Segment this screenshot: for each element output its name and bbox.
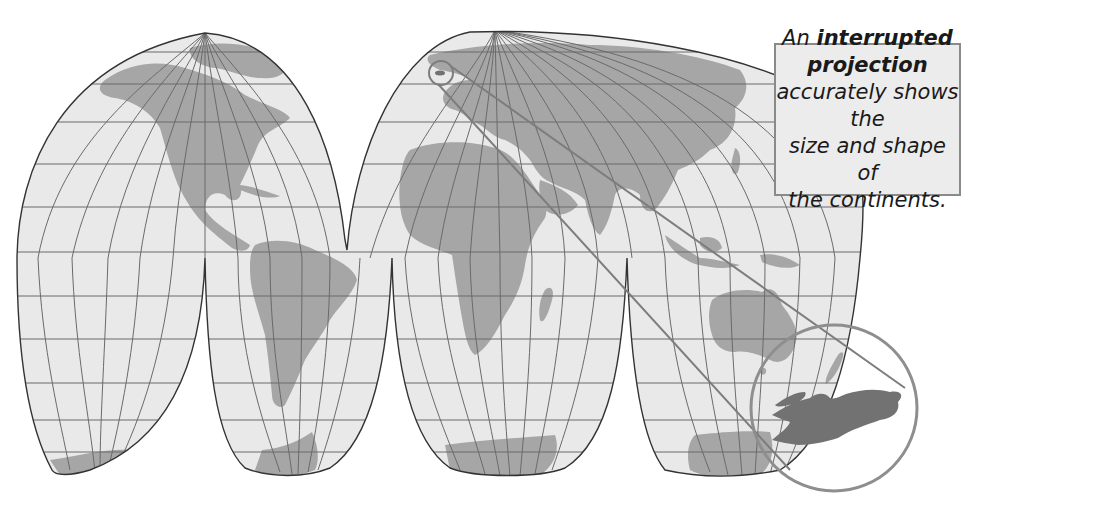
callout-line-3: size and shape of [776, 133, 959, 187]
callout-emphasis: interrupted projection [807, 26, 953, 77]
magnified-landmass [772, 390, 901, 445]
callout-box: An interrupted projection accurately sho… [774, 43, 961, 196]
callout-line-2: accurately shows the [776, 79, 959, 133]
callout-line-1: An interrupted projection [776, 25, 959, 79]
callout-line-4: the continents. [788, 187, 946, 214]
